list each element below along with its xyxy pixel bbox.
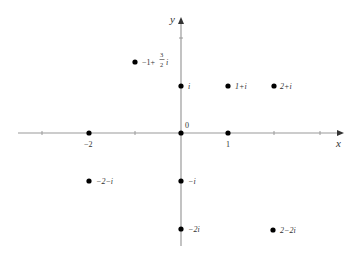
point-label-neg-i: −i bbox=[188, 177, 196, 186]
point-label-neg2-minus-i: −2−i bbox=[96, 177, 113, 186]
point-label-neg2i: −2i bbox=[188, 225, 200, 234]
origin-label: 0 bbox=[185, 121, 189, 130]
point-i bbox=[178, 83, 183, 88]
x-axis-arrow-icon bbox=[337, 130, 344, 136]
point-2-plus-i bbox=[271, 83, 276, 88]
svg-text:−1+: −1+ bbox=[142, 58, 156, 67]
point-origin bbox=[178, 130, 183, 135]
svg-text:3: 3 bbox=[160, 51, 163, 58]
point-2-minus-2i bbox=[270, 227, 275, 232]
point-1 bbox=[225, 130, 230, 135]
point-label-1-plus-i: 1+i bbox=[235, 82, 247, 91]
y-axis-label: y bbox=[169, 13, 175, 25]
point-label-neg1-plus-3-2-i: −1+ 3 2 i bbox=[142, 51, 168, 68]
point-neg1-plus-3-2-i bbox=[132, 59, 137, 64]
svg-text:2: 2 bbox=[160, 61, 163, 68]
point-label-2-minus-2i: 2−2i bbox=[280, 226, 296, 235]
point-neg2i bbox=[178, 226, 183, 231]
point-label-i: i bbox=[188, 82, 190, 91]
point-neg2 bbox=[86, 130, 91, 135]
point-neg2-minus-i bbox=[86, 178, 91, 183]
point-neg-i bbox=[178, 178, 183, 183]
complex-plane-diagram: x y 0 −2 1 −1+ 3 2 i i 1+i 2+i −2−i −i −… bbox=[0, 0, 356, 258]
y-axis-arrow-icon bbox=[178, 17, 184, 24]
point-1-plus-i bbox=[225, 83, 230, 88]
x-tick-label-neg2: −2 bbox=[84, 140, 93, 149]
x-tick-label-1: 1 bbox=[226, 140, 230, 149]
x-axis-label: x bbox=[335, 137, 341, 149]
svg-text:i: i bbox=[166, 58, 168, 67]
point-label-2-plus-i: 2+i bbox=[280, 82, 292, 91]
